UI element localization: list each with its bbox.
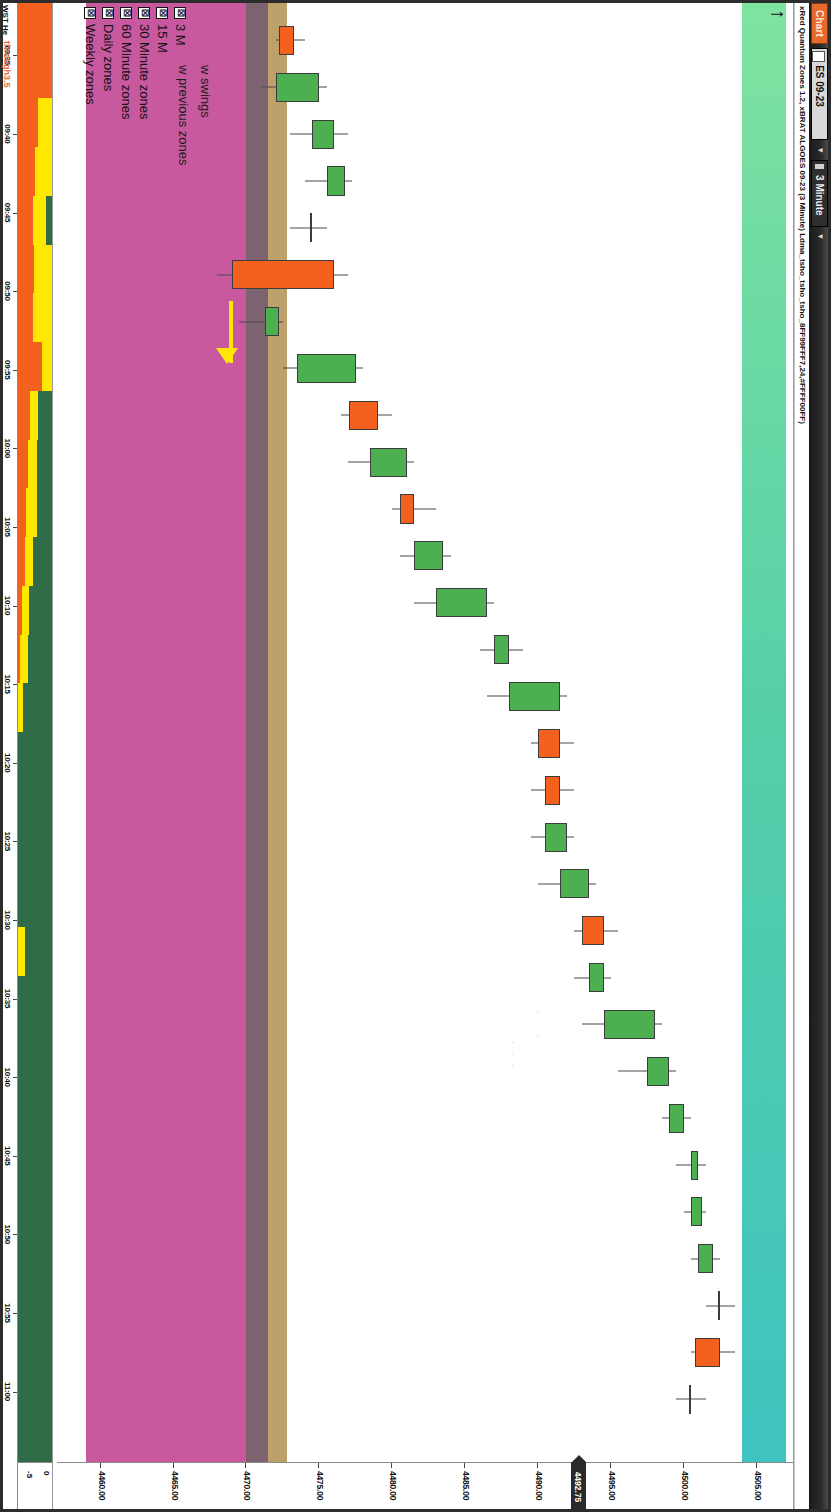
legend-item-60-minute-zones[interactable]: ☒ 60 Minute zones <box>118 7 135 119</box>
candle-body <box>509 682 560 711</box>
legend-checkbox-icon[interactable]: ☒ <box>157 7 169 19</box>
legend-item-daily-zones[interactable]: ☒ Daily zones <box>100 7 117 119</box>
legend-checkbox-icon[interactable]: ☒ <box>103 7 115 19</box>
time-tick-label: 10:15 <box>3 670 12 698</box>
time-tick-mark <box>13 1156 17 1157</box>
time-axis[interactable]: 09:3509:4009:4509:5009:5510:0010:0510:10… <box>0 0 18 1512</box>
legend-item-3-minute-zones[interactable]: ☒ 3 M <box>172 7 189 119</box>
candlestick <box>538 869 596 898</box>
time-tick-label: 10:25 <box>3 827 12 855</box>
legend-checkbox-icon[interactable]: ☒ <box>139 7 151 19</box>
indicator-bar-green <box>14 1366 52 1416</box>
time-tick-label: 10:35 <box>3 985 12 1013</box>
price-tick: 4490.00 <box>532 1463 544 1512</box>
indicator-axis-tick-0: 0 <box>42 1471 51 1475</box>
indicator-bar-green <box>25 927 52 977</box>
candlestick <box>574 916 618 945</box>
time-tick-label: 10:30 <box>3 906 12 934</box>
legend-checkbox-icon[interactable]: ☒ <box>175 7 187 19</box>
price-tick: 4495.00 <box>605 1463 617 1512</box>
legend-item-30-minute-zones[interactable]: ☒ 30 Minute zones <box>136 7 153 119</box>
time-tick-label: 09:40 <box>3 120 12 148</box>
time-tick-mark <box>13 1077 17 1078</box>
indicator-bar-green <box>17 1268 52 1318</box>
price-tick-label: 4500.00 <box>680 1471 690 1500</box>
time-tick-mark <box>13 55 17 56</box>
price-tick-label: 4505.00 <box>753 1471 763 1500</box>
indicator-bar-green <box>14 1024 52 1074</box>
indicator-secondary-label: through3.5 <box>2 41 12 88</box>
price-tick: 4475.00 <box>313 1463 325 1512</box>
candle-body <box>589 963 604 992</box>
candlestick <box>684 1197 706 1226</box>
candle-body <box>494 635 509 664</box>
indicator-bar-green <box>46 196 52 246</box>
chart-window-stage: Chart ES 09-23 ▼ 3 Minute ▼ xRed Quantum… <box>0 0 831 1512</box>
price-tick-label: 4480.00 <box>388 1471 398 1500</box>
price-plot-area[interactable]: · · · · · · ↑ w swings w previous zones … <box>58 0 794 1512</box>
indicator-bar-green <box>14 1122 52 1172</box>
indicator-bar-yellow <box>38 98 52 148</box>
indicator-bar-green <box>18 732 52 782</box>
indicator-bar-green <box>23 683 52 733</box>
up-arrow-marker-icon: ↑ <box>769 9 789 19</box>
indicator-bar-yellow <box>35 147 52 197</box>
chart-series-subtitle: xRed Quantum Zones 1.2, xBRAT ALGOES 09-… <box>794 0 809 1512</box>
price-tick: 4480.00 <box>386 1463 398 1512</box>
candlestick <box>480 635 524 664</box>
candlestick <box>691 1338 735 1367</box>
candlestick <box>582 1010 662 1039</box>
time-tick-mark <box>13 1313 17 1314</box>
candlestick <box>400 541 451 570</box>
candle-body <box>436 588 487 617</box>
symbol-dropdown-caret-icon[interactable]: ▼ <box>816 144 824 156</box>
candle-body <box>538 729 560 758</box>
indicator-bar-green <box>14 781 52 831</box>
price-tick-label: 4465.00 <box>170 1471 180 1500</box>
candle-body <box>689 1385 691 1414</box>
candle-body <box>414 541 443 570</box>
indicator-axis-tick-minus5: -5 <box>25 1471 34 1478</box>
price-tick: 4460.00 <box>95 1463 107 1512</box>
candle-body <box>604 1010 655 1039</box>
candlestick <box>290 213 326 242</box>
candle-body <box>582 916 604 945</box>
symbol-selector[interactable]: ES 09-23 <box>812 48 829 140</box>
legend-item-15-minute-zones[interactable]: ☒ 15 M <box>154 7 171 119</box>
indicator-bar-yellow <box>25 537 33 587</box>
time-tick-mark <box>13 920 17 921</box>
candle-body <box>327 166 345 195</box>
candlestick <box>706 1291 735 1320</box>
candle-body <box>545 823 567 852</box>
indicator-bar-green <box>14 1171 52 1221</box>
indicator-bar-yellow <box>30 391 39 441</box>
indicator-bar-green <box>28 635 52 685</box>
last-price-marker: 4492.75 <box>571 1462 586 1512</box>
legend-checkbox-icon[interactable]: ☒ <box>121 7 133 19</box>
candle-body <box>279 26 294 55</box>
indicator-bar-green <box>14 1073 52 1123</box>
candle-body <box>349 401 378 430</box>
candle-body <box>647 1057 669 1086</box>
candle-body <box>312 120 334 149</box>
candlestick <box>283 354 363 383</box>
timeframe-dropdown-caret-icon[interactable]: ▼ <box>816 231 824 243</box>
candle-body <box>698 1244 713 1273</box>
trading-chart-window: Chart ES 09-23 ▼ 3 Minute ▼ xRed Quantum… <box>0 0 831 1512</box>
legend-checkbox-icon[interactable]: ☒ <box>85 7 97 19</box>
price-tick-label: 4485.00 <box>461 1471 471 1500</box>
price-axis[interactable]: 4505.004500.004495.004490.004485.004480.… <box>57 1462 793 1512</box>
yellow-signal-arrow <box>229 301 233 363</box>
time-tick-label: 10:40 <box>3 1063 12 1091</box>
time-tick-mark <box>13 291 17 292</box>
indicator-plot-area <box>14 1 52 1462</box>
legend-item-weekly-zones[interactable]: ☒ Weekly zones <box>82 7 99 119</box>
window-titlebar: Chart ES 09-23 ▼ 3 Minute ▼ <box>809 0 831 1512</box>
time-tick-mark <box>13 999 17 1000</box>
timeframe-selector[interactable]: 3 Minute <box>812 160 829 227</box>
candle-body <box>297 354 355 383</box>
time-tick-mark <box>13 1234 17 1235</box>
chart-tab-button[interactable]: Chart <box>812 3 829 44</box>
candlestick <box>276 26 305 55</box>
legend-label: 15 M <box>155 24 170 53</box>
